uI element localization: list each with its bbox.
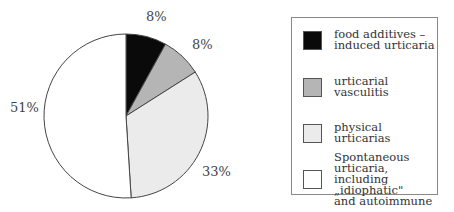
slice-label-vasculitis: 8% — [192, 37, 213, 52]
legend-label: Spontaneous urticaria,including „idiopha… — [334, 152, 437, 207]
legend: food additives –induced urticaria urtica… — [291, 17, 438, 195]
legend-swatch — [303, 124, 322, 143]
legend-label: food additives –induced urticaria — [334, 29, 435, 51]
slice-label-physical: 33% — [202, 164, 231, 179]
pie-chart — [0, 0, 260, 212]
legend-item-food-additives: food additives –induced urticaria — [303, 29, 435, 51]
pie-slice — [44, 34, 131, 198]
legend-swatch — [303, 170, 322, 189]
slice-label-food-additives: 8% — [146, 9, 167, 24]
legend-item-physical: physical urticarias — [303, 122, 437, 144]
legend-item-vasculitis: urticarial vasculitis — [303, 76, 437, 98]
legend-label: physical urticarias — [334, 122, 437, 144]
legend-swatch — [303, 78, 322, 97]
slice-label-spontaneous: 51% — [10, 100, 39, 115]
legend-item-spontaneous: Spontaneous urticaria,including „idiopha… — [303, 152, 437, 207]
legend-label: urticarial vasculitis — [334, 76, 437, 98]
legend-swatch — [303, 31, 322, 50]
